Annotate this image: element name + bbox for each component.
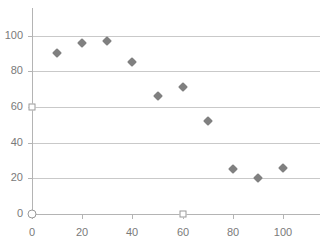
data-point[interactable]: [178, 82, 188, 92]
x-axis-label-20: 20: [62, 227, 102, 238]
x-axis-handle[interactable]: [179, 211, 186, 218]
y-axis-label-20: 20: [0, 172, 23, 183]
y-axis-handle[interactable]: [29, 103, 36, 110]
scatter-chart: 020406080100020406080100: [0, 0, 328, 242]
x-axis-label-40: 40: [112, 227, 152, 238]
y-axis-label-0: 0: [0, 208, 23, 219]
y-axis-label-40: 40: [0, 137, 23, 148]
data-point[interactable]: [278, 163, 288, 173]
x-tick-80: [233, 215, 234, 219]
gridline-y-20: [32, 178, 320, 179]
data-point[interactable]: [228, 164, 238, 174]
y-tick-40: [28, 143, 32, 144]
data-point[interactable]: [77, 38, 87, 48]
data-point[interactable]: [52, 48, 62, 58]
y-axis-label-60: 60: [0, 101, 23, 112]
gridline-y-80: [32, 71, 320, 72]
data-point[interactable]: [127, 57, 137, 67]
y-axis-label-80: 80: [0, 65, 23, 76]
data-point[interactable]: [102, 36, 112, 46]
y-tick-20: [28, 178, 32, 179]
plot-area: 020406080100020406080100: [0, 0, 328, 242]
y-axis-label-100: 100: [0, 30, 23, 41]
x-tick-20: [82, 215, 83, 219]
gridline-y-100: [32, 36, 320, 37]
x-axis-label-0: 0: [12, 227, 52, 238]
x-tick-100: [283, 215, 284, 219]
y-tick-100: [28, 36, 32, 37]
gridline-y-60: [32, 107, 320, 108]
x-tick-40: [132, 215, 133, 219]
origin-handle[interactable]: [28, 210, 37, 219]
gridline-y-40: [32, 143, 320, 144]
x-axis-label-80: 80: [213, 227, 253, 238]
x-axis-label-100: 100: [263, 227, 303, 238]
data-point[interactable]: [203, 116, 213, 126]
data-point[interactable]: [153, 91, 163, 101]
x-axis-line: [32, 214, 320, 215]
y-axis-line: [32, 8, 33, 215]
x-axis-label-60: 60: [163, 227, 203, 238]
data-point[interactable]: [253, 173, 263, 183]
y-tick-80: [28, 71, 32, 72]
